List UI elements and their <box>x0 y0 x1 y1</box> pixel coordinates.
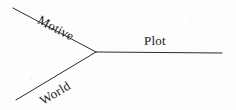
branch-line-plot <box>96 52 222 53</box>
branch-label-plot: Plot <box>144 34 166 47</box>
diagram-lines <box>0 0 236 110</box>
diagram-canvas: Motive World Plot <box>0 0 236 110</box>
